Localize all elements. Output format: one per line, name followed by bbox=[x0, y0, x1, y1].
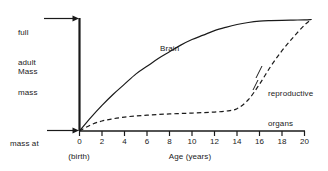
x-tick-label-14: 14 bbox=[233, 137, 242, 146]
mass-at-birth-leader bbox=[47, 128, 79, 134]
x-tick-label-0: 0 bbox=[77, 137, 81, 146]
annotation-mass-at-birth-line2: birth bbox=[10, 169, 39, 171]
x-tick-label-4: 4 bbox=[122, 137, 126, 146]
x-tick-label-8: 8 bbox=[167, 137, 171, 146]
x-axis-label: Age (years) bbox=[169, 152, 211, 162]
annotation-mass-at-birth: mass at birth bbox=[10, 119, 39, 171]
series-label-reproductive-organs-line1: reproductive bbox=[268, 89, 313, 99]
full-adult-mass-leader bbox=[44, 16, 79, 22]
growth-curves-figure: full adult mass Mass mass at birth Brain… bbox=[0, 0, 328, 171]
x-tick-label-18: 18 bbox=[278, 137, 287, 146]
annotation-mass-at-birth-line1: mass at bbox=[10, 139, 39, 149]
annotation-full-adult-mass-line3: mass bbox=[18, 88, 38, 98]
x-tick-label-12: 12 bbox=[210, 137, 219, 146]
x-tick-label-16: 16 bbox=[255, 137, 264, 146]
series-label-reproductive-organs-line2: organs bbox=[268, 119, 313, 129]
x-tick-label-6: 6 bbox=[145, 137, 149, 146]
x-tick-label-20: 20 bbox=[300, 137, 309, 146]
y-axis-label: Mass bbox=[18, 67, 38, 77]
annotation-birth: (birth) bbox=[68, 152, 90, 162]
annotation-full-adult-mass-line1: full bbox=[18, 28, 38, 38]
series-label-brain: Brain bbox=[160, 44, 179, 54]
x-tick-label-2: 2 bbox=[100, 137, 104, 146]
annotation-full-adult-mass: full adult mass bbox=[18, 8, 38, 118]
x-tick-label-10: 10 bbox=[188, 137, 197, 146]
